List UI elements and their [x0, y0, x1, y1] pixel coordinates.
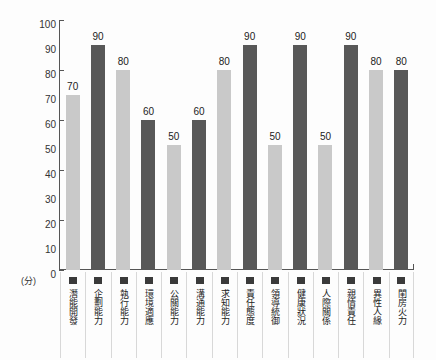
bar-value-label: 90	[235, 32, 265, 42]
bar-value-label: 90	[285, 32, 315, 42]
category-label: 異性人緣	[364, 289, 389, 325]
bar-value-label: 50	[311, 132, 341, 142]
y-tick-label: 50	[45, 145, 56, 155]
bar-slot: 80	[389, 20, 414, 270]
bar[interactable]	[369, 70, 383, 270]
y-tick-label: 90	[45, 45, 56, 55]
legend-swatch-icon	[170, 277, 178, 284]
y-tick-label: 40	[45, 170, 56, 180]
bar-value-label: 60	[184, 107, 214, 117]
category-cell[interactable]: 環境適應	[136, 272, 161, 358]
category-label: 潛能開發	[61, 289, 86, 325]
bar-value-label: 60	[134, 107, 164, 117]
y-tick-mark	[59, 220, 64, 221]
category-cell[interactable]: 執行能力	[111, 272, 136, 358]
category-cell[interactable]: 責任態度	[237, 272, 262, 358]
bar-value-label: 80	[386, 57, 416, 67]
legend-swatch-icon	[322, 277, 330, 284]
legend-swatch-icon	[94, 277, 102, 284]
category-cell[interactable]: 溝通能力	[186, 272, 211, 358]
bar-slot: 90	[85, 20, 110, 270]
y-tick-mark	[59, 270, 64, 271]
legend-swatch-icon	[373, 277, 381, 284]
bar[interactable]	[318, 145, 332, 270]
bar-slot: 50	[161, 20, 186, 270]
bar-slot: 80	[363, 20, 388, 270]
y-tick-label: 30	[45, 195, 56, 205]
bar-slot: 70	[60, 20, 85, 270]
bar[interactable]	[141, 120, 155, 270]
bar-value-label: 90	[336, 32, 366, 42]
bar-slot: 80	[111, 20, 136, 270]
category-label: 執行能力	[112, 289, 137, 325]
category-label: 人際關係	[314, 289, 339, 325]
category-cell[interactable]: 閨房火力	[389, 272, 414, 358]
category-cell[interactable]: 健康狀況	[288, 272, 313, 358]
legend-swatch-icon	[69, 277, 77, 284]
bar[interactable]	[394, 70, 408, 270]
category-label: 領導統御	[263, 289, 288, 325]
y-axis-unit-label: (分)	[21, 277, 36, 286]
bar[interactable]	[66, 95, 80, 270]
category-cell[interactable]: 企劃能力	[85, 272, 110, 358]
bar[interactable]	[192, 120, 206, 270]
category-label: 親情責任	[339, 289, 364, 325]
category-cell[interactable]: 領導統御	[262, 272, 287, 358]
y-tick-label: 60	[45, 120, 56, 130]
category-cell[interactable]: 求知能力	[212, 272, 237, 358]
category-cell[interactable]: 潛能開發	[60, 272, 85, 358]
bar-slot: 50	[262, 20, 287, 270]
bar-value-label: 50	[260, 132, 290, 142]
bar[interactable]	[116, 70, 130, 270]
category-label: 環境適應	[137, 289, 162, 325]
y-tick-label: 0	[50, 270, 56, 280]
category-label: 公關能力	[162, 289, 187, 325]
y-tick-mark	[59, 20, 64, 21]
category-label: 健康狀況	[289, 289, 314, 325]
legend-swatch-icon	[271, 277, 279, 284]
category-cell[interactable]: 人際關係	[313, 272, 338, 358]
y-axis: 1009080706050403020100	[20, 18, 60, 270]
bar-value-label: 90	[83, 32, 113, 42]
bar-value-label: 70	[58, 82, 88, 92]
y-tick-label: 80	[45, 70, 56, 80]
bar-value-label: 80	[209, 57, 239, 67]
legend-swatch-icon	[221, 277, 229, 284]
category-legend-strip: 潛能開發企劃能力執行能力環境適應公關能力溝通能力求知能力責任態度領導統御健康狀況…	[60, 272, 414, 358]
bar[interactable]	[91, 45, 105, 270]
category-label: 溝通能力	[187, 289, 212, 325]
bar-value-label: 50	[159, 132, 189, 142]
bar-slot: 50	[313, 20, 338, 270]
legend-swatch-icon	[145, 277, 153, 284]
y-tick-mark	[59, 120, 64, 121]
bar[interactable]	[268, 145, 282, 270]
category-label: 企劃能力	[86, 289, 111, 325]
bar-chart: 1009080706050403020100 (分) 7090806050608…	[0, 0, 436, 360]
bar-slot: 80	[212, 20, 237, 270]
bar-slot: 90	[338, 20, 363, 270]
category-label: 閨房火力	[390, 289, 415, 325]
y-tick-label: 70	[45, 95, 56, 105]
legend-swatch-icon	[120, 277, 128, 284]
bar-slot: 90	[288, 20, 313, 270]
bar[interactable]	[243, 45, 257, 270]
category-cell[interactable]: 親情責任	[338, 272, 363, 358]
bar[interactable]	[167, 145, 181, 270]
y-tick-mark	[59, 170, 64, 171]
bar-value-label: 80	[108, 57, 138, 67]
y-tick-label: 20	[45, 220, 56, 230]
category-label: 責任態度	[238, 289, 263, 325]
legend-swatch-icon	[196, 277, 204, 284]
bar-slot: 60	[136, 20, 161, 270]
category-cell[interactable]: 異性人緣	[363, 272, 388, 358]
bar[interactable]	[293, 45, 307, 270]
category-label: 求知能力	[213, 289, 238, 325]
bar[interactable]	[217, 70, 231, 270]
category-cell[interactable]: 公關能力	[161, 272, 186, 358]
plot-area: 7090806050608090509050908080	[60, 20, 414, 270]
legend-swatch-icon	[347, 277, 355, 284]
bar-slot: 60	[186, 20, 211, 270]
bar[interactable]	[344, 45, 358, 270]
legend-swatch-icon	[246, 277, 254, 284]
legend-swatch-icon	[397, 277, 405, 284]
